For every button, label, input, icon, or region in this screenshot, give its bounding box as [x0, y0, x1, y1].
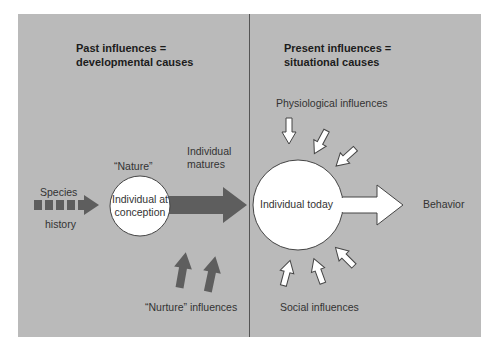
social-label: Social influences [280, 301, 359, 314]
conception-circle-label: Individual at conception [110, 193, 170, 219]
matures-line2: matures [187, 158, 231, 171]
individual-today-label: Individual today [260, 198, 333, 211]
past-heading-line2: developmental causes [76, 55, 193, 69]
conception-line1: Individual at [110, 193, 170, 206]
matures-arrow-icon [165, 187, 247, 223]
matures-line1: Individual [187, 145, 231, 158]
species-label: Species [40, 186, 77, 199]
conception-line2: conception [110, 206, 170, 219]
history-label: history [45, 218, 76, 231]
present-heading-line1: Present influences = [284, 41, 391, 55]
behavior-label: Behavior [423, 198, 464, 211]
diagram-graphics [0, 0, 496, 352]
behavior-arrow-icon [338, 185, 403, 225]
present-influences-heading: Present influences = situational causes [284, 41, 391, 69]
nature-label: “Nature” [114, 160, 153, 173]
present-heading-line2: situational causes [284, 55, 391, 69]
physiological-label: Physiological influences [276, 97, 387, 110]
nurture-arrow-icon [171, 251, 224, 294]
past-influences-heading: Past influences = developmental causes [76, 41, 193, 69]
nurture-label: “Nurture” influences [145, 301, 237, 314]
individual-matures-label: Individual matures [187, 145, 231, 171]
past-heading-line1: Past influences = [76, 41, 193, 55]
